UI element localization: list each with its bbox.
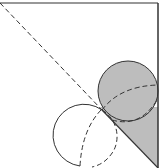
geometry-diagram: [0, 0, 162, 168]
inner-dashed-arc-lower: [80, 110, 101, 166]
diagonal-dashed: [0, 3, 102, 110]
open-circle-solid-arc: [53, 104, 102, 166]
